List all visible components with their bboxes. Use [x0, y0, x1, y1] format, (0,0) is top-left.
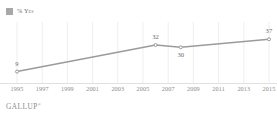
data-point-marker	[154, 44, 157, 47]
x-tick-label: 1997	[36, 86, 49, 92]
x-tick-label: 2013	[237, 86, 250, 92]
data-point-marker	[179, 46, 182, 49]
legend-swatch-icon	[6, 8, 13, 15]
x-tick-label: 2007	[162, 86, 175, 92]
footer-brand-text: GALLUP	[6, 102, 38, 111]
data-value-label: 37	[266, 28, 273, 35]
data-point-marker	[268, 38, 271, 41]
gallup-line-chart: % Yes 9323037 19951997199920012003200520…	[0, 0, 277, 120]
x-tick-label: 1995	[11, 86, 24, 92]
plot-svg	[0, 22, 277, 84]
x-tick-label: 1999	[61, 86, 74, 92]
data-value-label: 32	[152, 34, 159, 41]
x-tick-label: 2009	[187, 86, 200, 92]
data-value-label: 30	[177, 52, 184, 59]
data-value-label: 9	[15, 61, 18, 68]
x-tick-label: 2001	[86, 86, 99, 92]
x-tick-label: 2015	[263, 86, 276, 92]
x-tick-label: 2005	[137, 86, 150, 92]
gallup-footer-logo: GALLUP®	[6, 103, 41, 111]
footer-registered-mark: ®	[38, 102, 42, 107]
plot-area: 9323037	[0, 22, 277, 84]
gridlines	[17, 22, 269, 83]
x-tick-label: 2003	[111, 86, 124, 92]
chart-legend: % Yes	[6, 6, 34, 16]
x-axis-tick-labels: 1995199719992001200320052007200920112013…	[0, 86, 277, 98]
data-point-marker	[16, 70, 19, 73]
legend-label: % Yes	[17, 8, 34, 14]
x-tick-label: 2011	[212, 86, 225, 92]
